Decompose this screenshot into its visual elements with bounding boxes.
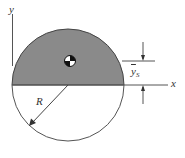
diagram-svg bbox=[0, 0, 185, 158]
centroid-icon bbox=[65, 56, 76, 67]
dim-arrow-up-icon bbox=[141, 85, 145, 91]
dim-arrow-down-icon bbox=[141, 55, 145, 61]
radius-label: R bbox=[36, 96, 43, 107]
centroid-height-label: yS bbox=[131, 66, 139, 79]
diagram-canvas: y x R yS bbox=[0, 0, 185, 158]
x-axis-label: x bbox=[171, 78, 176, 89]
y-axis-label: y bbox=[9, 4, 14, 15]
centroid-height-sub: S bbox=[136, 71, 140, 79]
lower-semicircle-outline bbox=[12, 85, 124, 141]
